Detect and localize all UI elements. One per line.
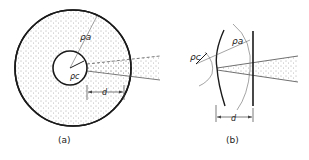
rho-c-label-b: ρc — [190, 52, 201, 62]
panel-b: ρa ρc d (b) — [190, 24, 298, 145]
rho-a-label-b: ρa — [232, 36, 243, 46]
panel-a: ρa ρc d (a) — [15, 10, 160, 145]
caption-a: (a) — [58, 135, 71, 145]
rho-c-label: ρc — [70, 72, 80, 81]
figure: ρa ρc d (a) ρa ρc d (b) — [0, 0, 309, 160]
d-label-b: d — [231, 114, 237, 123]
rho-a-label: ρa — [80, 32, 91, 42]
rho-c-arc — [199, 52, 213, 86]
caption-b: (b) — [226, 135, 239, 145]
beam-wedge-b — [217, 56, 298, 82]
